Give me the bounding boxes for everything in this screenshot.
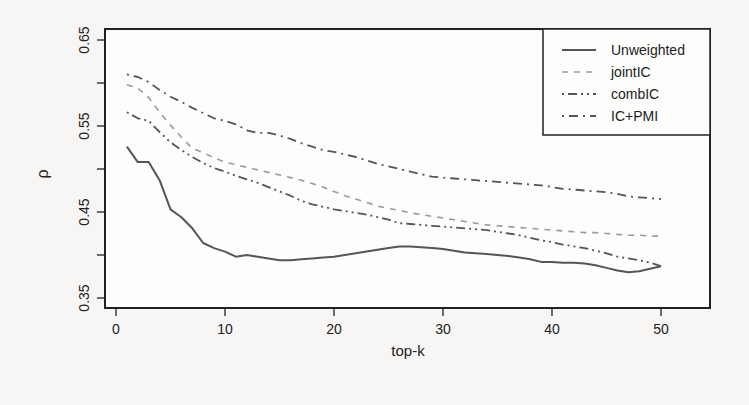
x-axis-label: top-k [391,342,425,359]
y-axis-label: ρ [34,169,51,178]
y-tick-label: 0.65 [76,26,92,53]
x-tick-label: 30 [435,321,451,337]
y-tick-label: 0.35 [76,284,92,311]
y-axis: 0.350.450.550.65 [76,26,105,311]
y-tick-label: 0.45 [76,198,92,225]
x-tick-label: 10 [217,321,233,337]
line-chart: 0.350.450.550.65 01020304050 top-k ρ Unw… [0,0,749,405]
y-tick-label: 0.55 [76,112,92,139]
legend-label: combIC [611,86,659,102]
x-tick-label: 50 [653,321,669,337]
x-tick-label: 20 [326,321,342,337]
legend-label: Unweighted [611,42,685,58]
legend-label: IC+PMI [611,108,658,124]
x-tick-label: 0 [112,321,120,337]
legend-label: jointIC [610,64,651,80]
x-axis: 01020304050 [112,308,669,337]
x-tick-label: 40 [544,321,560,337]
legend: UnweightedjointICcombICIC+PMI [543,29,710,135]
